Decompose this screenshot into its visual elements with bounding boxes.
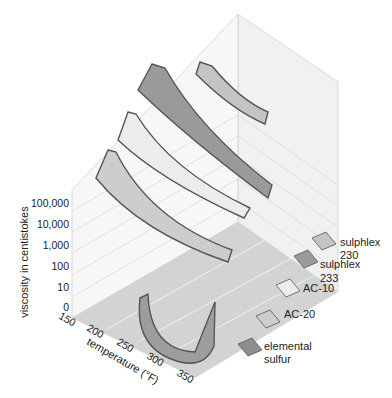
svg-text:1,000: 1,000 <box>43 239 69 251</box>
chart-3d: 100,000 10,000 1,000 100 10 0 viscosity … <box>0 0 392 398</box>
svg-text:100,000: 100,000 <box>31 197 69 209</box>
svg-text:10,000: 10,000 <box>37 218 69 230</box>
svg-text:10: 10 <box>57 281 69 293</box>
svg-text:sulphlex: sulphlex <box>340 236 381 248</box>
svg-text:sulfur: sulfur <box>264 353 291 365</box>
svg-text:elemental: elemental <box>264 340 312 352</box>
svg-text:AC-20: AC-20 <box>284 308 315 320</box>
y-axis: 100,000 10,000 1,000 100 10 0 <box>31 197 69 313</box>
svg-text:100: 100 <box>51 260 69 272</box>
y-axis-label: viscosity in centistokes <box>18 206 30 318</box>
svg-text:sulphlex: sulphlex <box>320 258 361 270</box>
legend-item-elemental-sulfur: elemental sulfur <box>238 338 312 365</box>
svg-text:AC-10: AC-10 <box>303 282 334 294</box>
